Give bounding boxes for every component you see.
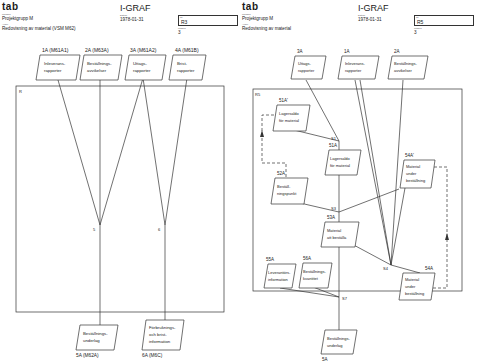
node-label: S3 — [331, 206, 337, 211]
input-label: Beställnings- — [394, 61, 418, 66]
store-label: Material — [406, 164, 420, 169]
output-code: 6A (M6C) — [142, 353, 163, 358]
input-code: 1A — [344, 49, 350, 54]
input-label: Inleverans- — [44, 61, 66, 66]
flow-line — [143, 78, 165, 225]
store-code: 54A — [425, 266, 433, 271]
flow-line — [100, 78, 143, 225]
input-label: rapporter — [44, 68, 62, 73]
output-label: information — [149, 339, 171, 344]
flow-line — [360, 80, 391, 265]
output-label: Förbruknings- — [149, 325, 176, 330]
store-code: 56A — [303, 256, 311, 261]
flow-line — [355, 80, 391, 265]
input-code: 3A — [297, 49, 303, 54]
igraf-sheet-r5: tab Lärobok Projektgrupp M Avser Redovis… — [240, 0, 480, 364]
store-code: 54A' — [405, 153, 414, 158]
system-boundary — [16, 86, 224, 312]
store-label: Material — [405, 277, 419, 282]
store-code: 51A' — [279, 98, 288, 103]
input-label: Brist- — [177, 61, 188, 66]
store-label: Lagersaldo — [330, 156, 351, 161]
flow-line — [391, 188, 405, 265]
output-box-5a — [321, 330, 357, 354]
store-label: för material — [330, 163, 350, 168]
store-box-55a — [264, 264, 296, 288]
store-label: Leverantörs- — [268, 270, 291, 275]
input-code: 2A (M63A) — [85, 47, 109, 53]
input-label: avvikelser — [394, 68, 412, 73]
boundary-label: R — [19, 89, 22, 94]
input-label: rapporter — [177, 68, 195, 73]
node-label: S7 — [342, 296, 348, 301]
node-label: S1 — [331, 136, 337, 141]
store-label: Beställnings- — [303, 269, 327, 274]
store-label: beställning — [405, 291, 424, 296]
output-label: Beställnings- — [83, 331, 108, 336]
igraf-sheet-r3: tab Lärobok Projektgrupp M Avser Redovis… — [0, 0, 240, 364]
store-code: 55A — [266, 257, 274, 262]
arrow-up-icon — [445, 233, 449, 240]
output-label: underlag — [83, 338, 100, 343]
store-label: beställning — [406, 178, 425, 183]
input-label: rapporter — [133, 68, 151, 73]
store-code: 52A — [277, 171, 285, 176]
flow-line — [391, 80, 403, 265]
store-label: Lagersaldo — [279, 111, 300, 116]
node-label: 6 — [158, 227, 161, 232]
input-code: 4A (M61B) — [175, 47, 199, 53]
flow-diagram-left: 1A (M61A1) 2A (M63A) 3A (M61A2) 4A (M61B… — [0, 0, 240, 364]
dashed-feedback-line — [433, 167, 447, 288]
node-label: S4 — [383, 266, 389, 271]
store-label: Beställ- — [277, 184, 291, 189]
store-code: 53A — [327, 215, 335, 220]
store-label: information — [268, 277, 288, 282]
output-code: 5A — [322, 357, 328, 362]
input-code: 3A (M61A2) — [130, 47, 157, 53]
input-label: rapporter — [298, 68, 315, 73]
output-code: 5A (M62A) — [76, 353, 99, 358]
store-label: ningspunkt — [277, 191, 297, 196]
store-label: Material — [327, 228, 341, 233]
output-label: underlag — [327, 343, 343, 348]
input-label: Uttags- — [298, 61, 312, 66]
output-label: Beställnings- — [327, 336, 351, 341]
output-label: och brist- — [149, 332, 167, 337]
flow-line — [391, 265, 420, 273]
flow-line — [280, 288, 339, 297]
flow-diagram-right: 3A 1A 2A 51A' 51A 52A 53A 54A' 54A 55A 5… — [240, 0, 480, 364]
flow-line — [350, 243, 391, 265]
input-code: 1A (M61A1) — [42, 47, 69, 53]
flow-line — [165, 78, 187, 225]
store-label: för material — [279, 118, 299, 123]
arrow-up-icon — [260, 130, 264, 137]
store-label: under — [405, 284, 416, 289]
flow-line — [313, 287, 339, 297]
boundary-label: R5 — [255, 92, 261, 97]
input-code: 2A — [394, 49, 400, 54]
input-label: Uttags- — [133, 61, 147, 66]
store-label: att beställa — [327, 235, 347, 240]
store-code: 51A — [329, 143, 337, 148]
store-label: kvantitet — [303, 276, 319, 281]
input-label: Inleverans- — [345, 61, 365, 66]
node-label: 5 — [93, 227, 96, 232]
input-label: avvikelser — [87, 68, 107, 73]
flow-line — [339, 189, 399, 212]
input-label: Beställnings- — [87, 61, 112, 66]
store-label: under — [406, 171, 417, 176]
input-label: rapporter — [345, 68, 362, 73]
flow-line — [58, 80, 100, 225]
